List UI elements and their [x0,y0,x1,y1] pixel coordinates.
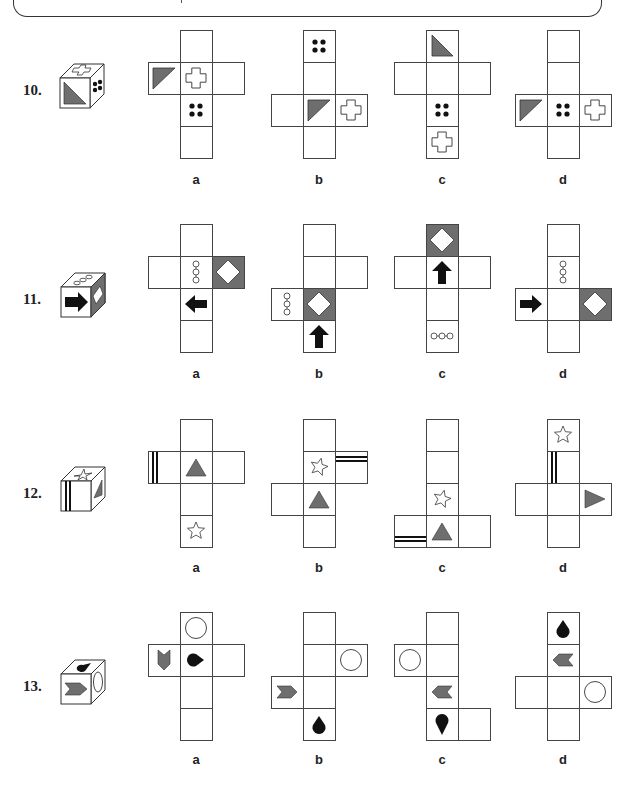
net-cell [547,126,579,158]
net-cell [212,451,244,483]
net-cell [303,515,335,547]
net-cell [303,30,335,62]
four-dots-icon [98,80,102,84]
three-circles-chain-icon [431,333,453,339]
net-cell [515,483,547,515]
four-dots-icon [93,88,97,92]
three-circles-chain-icon [284,293,290,315]
option-a-net[interactable] [148,419,245,548]
net-cell [271,483,303,515]
net-cell [426,612,458,644]
net-cell [547,708,579,740]
option-c-net[interactable] [394,224,491,353]
net-cell [180,676,212,708]
net-cell [148,256,180,288]
net-cell [303,256,335,288]
double-bars-icon [65,481,67,511]
net-cell [303,419,335,451]
net-cell [180,483,212,515]
four-dots-icon [98,86,102,90]
net-cell [180,708,212,740]
option-c-net[interactable] [394,419,491,548]
net-cell [394,256,426,288]
net-cell [394,62,426,94]
net-cell [547,62,579,94]
net-cell [303,612,335,644]
net-cell [458,62,490,94]
cube-figure-10 [60,64,104,108]
net-cell [426,62,458,94]
net-cell [426,288,458,320]
option-d-net[interactable] [515,612,612,741]
net-cell [335,451,367,483]
net-cell [515,676,547,708]
net-cell [394,515,426,547]
option-c-net[interactable] [394,30,491,159]
three-circles-chain-icon [74,281,80,285]
net-cell [426,419,458,451]
circle-icon [585,682,606,703]
net-cell [303,644,335,676]
circle-icon [94,672,103,692]
net-cell [271,94,303,126]
circle-icon [341,650,362,671]
net-cell [547,94,579,126]
net-cell [547,288,579,320]
net-cell [426,451,458,483]
cube-figure-12 [61,467,105,511]
net-cell [303,224,335,256]
three-circles-chain-icon [80,278,86,282]
net-cell [547,515,579,547]
net-cell [547,30,579,62]
net-cell [547,676,579,708]
net-cell [547,224,579,256]
net-cell [303,62,335,94]
option-a-net[interactable] [148,30,245,159]
option-b-net[interactable] [271,224,368,353]
three-circles-chain-icon [193,261,199,283]
net-cell [212,62,244,94]
net-cell [180,126,212,158]
net-cell [180,320,212,352]
net-cell [303,126,335,158]
option-c-net[interactable] [394,612,491,741]
net-cell [180,224,212,256]
net-cell [547,483,579,515]
net-cell [180,30,212,62]
cube-figure-13 [61,660,105,704]
net-cell [547,320,579,352]
cube-figure-11 [61,273,105,317]
option-b-net[interactable] [271,30,368,159]
net-cell [458,708,490,740]
option-d-net[interactable] [515,224,612,353]
net-cell [180,419,212,451]
option-a-net[interactable] [148,224,245,353]
net-cell [335,256,367,288]
three-circles-chain-icon [560,261,566,283]
net-cell [458,256,490,288]
net-cell [180,94,212,126]
circle-icon [400,650,421,671]
circle-icon [186,618,207,639]
net-cell [212,644,244,676]
option-a-net[interactable] [148,612,245,741]
option-d-net[interactable] [515,30,612,159]
option-b-net[interactable] [271,419,368,548]
puzzle-canvas [0,0,631,786]
four-dots-icon [93,82,97,86]
option-b-net[interactable] [271,612,368,741]
net-cell [426,94,458,126]
net-cell [426,644,458,676]
three-circles-chain-icon [86,275,92,279]
net-cell [458,515,490,547]
option-d-net[interactable] [515,419,612,548]
net-cell [303,676,335,708]
